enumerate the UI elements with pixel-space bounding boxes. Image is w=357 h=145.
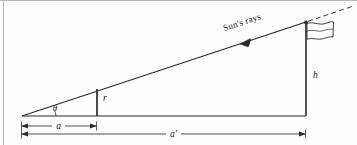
label-sun-rays: Sun's rays bbox=[222, 11, 263, 33]
label-a: a bbox=[56, 121, 61, 131]
ray-extension-dashed-line bbox=[308, 7, 352, 22]
flag-icon bbox=[307, 22, 334, 39]
sun-rays-diagram: θ r h a a′ Sun's rays bbox=[0, 0, 357, 145]
label-h: h bbox=[313, 70, 318, 80]
label-a-prime: a′ bbox=[170, 129, 178, 139]
figure-container: θ r h a a′ Sun's rays bbox=[0, 0, 357, 145]
sun-ray-line bbox=[22, 22, 306, 116]
label-theta: θ bbox=[53, 103, 58, 113]
label-r: r bbox=[103, 93, 107, 103]
